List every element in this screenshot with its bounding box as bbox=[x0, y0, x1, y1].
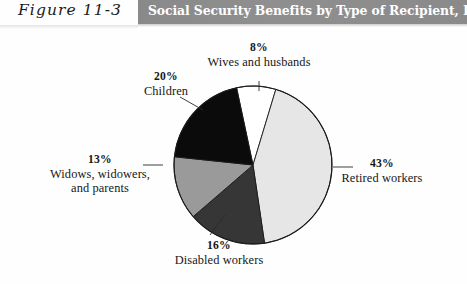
pie-label-percent: 43% bbox=[342, 157, 423, 171]
pie-slices-group bbox=[174, 86, 332, 244]
pie-label-children: 20% Children bbox=[144, 70, 188, 98]
pie-label-name: Disabled workers bbox=[175, 253, 264, 268]
pie-label-wives-and-husbands: 8% Wives and husbands bbox=[207, 41, 310, 69]
figure-title-text: Social Security Benefits by Type of Reci… bbox=[148, 3, 467, 18]
pie-label-percent: 13% bbox=[50, 153, 150, 167]
pie-label-percent: 20% bbox=[144, 70, 188, 84]
figure-number-label: Figure 11-3 bbox=[18, 1, 122, 19]
pie-label-name: Children bbox=[144, 84, 188, 99]
pie-label-percent: 16% bbox=[175, 239, 264, 253]
pie-chart-area: 8% Wives and husbands 20% Children 13% W… bbox=[0, 25, 467, 284]
pie-label-name-line2: and parents bbox=[50, 181, 150, 196]
leader-line-children bbox=[180, 97, 203, 110]
pie-label-disabled-workers: 16% Disabled workers bbox=[175, 239, 264, 267]
pie-label-retired-workers: 43% Retired workers bbox=[342, 157, 423, 185]
pie-label-percent: 8% bbox=[207, 41, 310, 55]
title-banner: Social Security Benefits by Type of Reci… bbox=[138, 0, 467, 24]
pie-label-widows-widowers-and-parents: 13% Widows, widowers, and parents bbox=[50, 153, 150, 196]
figure-header: Figure 11-3 Social Security Benefits by … bbox=[0, 0, 467, 25]
pie-label-name-line1: Widows, widowers, bbox=[50, 167, 150, 182]
pie-label-name: Wives and husbands bbox=[207, 55, 310, 70]
pie-label-name: Retired workers bbox=[342, 171, 423, 186]
figure-container: Figure 11-3 Social Security Benefits by … bbox=[0, 0, 467, 284]
